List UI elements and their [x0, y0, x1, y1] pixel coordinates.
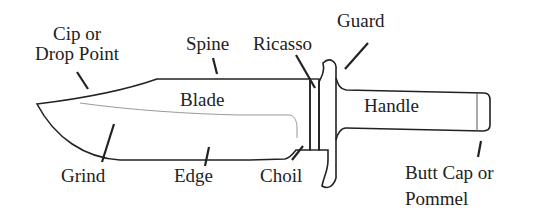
blade-outline: [37, 79, 310, 160]
leader-grind: [102, 124, 114, 162]
label-butt-line1: Butt Cap or: [405, 163, 494, 183]
label-cip-line1: Cip or: [22, 24, 132, 44]
label-guard: Guard: [337, 11, 384, 31]
leader-guard: [345, 43, 368, 69]
label-blade: Blade: [180, 90, 224, 110]
leader-cip: [77, 72, 88, 89]
label-butt-line2: Pommel: [405, 189, 494, 209]
leader-edge: [205, 147, 209, 166]
ricasso-shape: [310, 79, 319, 150]
label-ricasso: Ricasso: [253, 34, 312, 54]
label-spine: Spine: [186, 34, 229, 54]
guard-shape: [319, 60, 336, 188]
label-grind: Grind: [61, 166, 105, 186]
leader-spine: [213, 58, 217, 74]
label-handle: Handle: [364, 96, 419, 116]
label-butt-cap-or-pommel: Butt Cap or Pommel: [405, 163, 494, 209]
label-cip-or-drop-point: Cip or Drop Point: [22, 24, 132, 64]
knife-diagram: Cip or Drop Point Spine Ricasso Guard Bl…: [0, 0, 540, 223]
label-edge: Edge: [174, 166, 213, 186]
label-choil: Choil: [260, 166, 302, 186]
label-cip-line2: Drop Point: [22, 44, 132, 64]
leader-ricasso: [296, 55, 315, 88]
leader-butt: [478, 141, 481, 157]
